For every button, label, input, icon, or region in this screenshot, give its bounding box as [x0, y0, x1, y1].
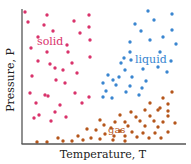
gas-point [166, 102, 169, 105]
gas-point [159, 136, 162, 139]
gas-point [61, 139, 64, 142]
gas-point [111, 138, 114, 141]
gas-point [148, 114, 151, 117]
solid-point [43, 93, 46, 96]
y-axis-label: Pressure, P [4, 48, 17, 112]
gas-point [166, 109, 169, 112]
gas-point [156, 125, 159, 128]
solid-point [45, 50, 48, 53]
liquid-point [101, 95, 104, 98]
liquid-point [110, 96, 113, 99]
solid-point [48, 62, 51, 65]
solid-point [45, 13, 48, 16]
gas-point [81, 138, 84, 141]
liquid-point [170, 12, 173, 15]
solid-point [66, 50, 69, 53]
solid-point [64, 115, 67, 118]
gas-point [166, 114, 169, 117]
liquid-point [165, 70, 168, 73]
gas-point [118, 113, 121, 116]
liquid-point [128, 40, 131, 43]
gas-point [143, 108, 146, 111]
liquid-point [104, 89, 107, 92]
gas-point [134, 115, 137, 118]
liquid-point [111, 78, 114, 81]
gas-point [135, 135, 138, 138]
liquid-point [137, 93, 140, 96]
gas-point [103, 132, 106, 135]
liquid-point [101, 81, 104, 84]
liquid-point [141, 67, 144, 70]
solid-point [63, 81, 66, 84]
liquid-point [174, 42, 177, 45]
gas-point [45, 140, 48, 143]
solid-point [65, 43, 68, 46]
gas-point [94, 128, 97, 131]
liquid-point [170, 28, 173, 31]
solid-point [72, 19, 75, 22]
solid-point [87, 13, 90, 16]
solid-point [42, 23, 45, 26]
gas-point [123, 139, 126, 142]
liquid-point [128, 84, 131, 87]
x-axis-label: Temperature, T [60, 148, 147, 161]
solid-point [70, 61, 73, 64]
phase-diagram: solid liquid gas Temperature, T Pressure… [0, 0, 191, 164]
solid-point [87, 95, 90, 98]
gas-point [166, 130, 169, 133]
solid-point [36, 59, 39, 62]
solid-point [73, 91, 76, 94]
gas-point [98, 137, 101, 140]
solid-point [61, 68, 64, 71]
liquid-point [140, 86, 143, 89]
liquid-point [122, 56, 125, 59]
solid-point [80, 101, 83, 104]
gas-point [85, 127, 88, 130]
solid-point [78, 31, 81, 34]
liquid-point [139, 29, 142, 32]
gas-point [156, 108, 159, 111]
liquid-point [152, 18, 155, 21]
gas-label: gas [108, 124, 126, 135]
liquid-point [114, 83, 117, 86]
solid-point [75, 71, 78, 74]
liquid-point [144, 79, 147, 82]
solid-point [32, 116, 35, 119]
gas-point [126, 124, 129, 127]
gas-point [98, 118, 101, 121]
gas-point [89, 136, 92, 139]
solid-point [23, 10, 26, 13]
liquid-point [128, 50, 131, 53]
gas-point [148, 101, 151, 104]
liquid-point [119, 61, 122, 64]
solid-label: solid [37, 35, 63, 48]
gas-point [161, 120, 164, 123]
solid-point [30, 74, 33, 77]
gas-point [153, 131, 156, 134]
liquid-point [133, 22, 136, 25]
gas-point [76, 134, 79, 137]
gas-point [130, 130, 133, 133]
gas-point [143, 124, 146, 127]
gas-point [56, 136, 59, 139]
liquid-point [169, 59, 172, 62]
solid-point [34, 101, 37, 104]
liquid-point [123, 68, 126, 71]
solid-point [88, 55, 91, 58]
gas-point [147, 136, 150, 139]
gas-point [173, 121, 176, 124]
gas-point [170, 90, 173, 93]
solid-point [28, 91, 31, 94]
liquid-point [130, 75, 133, 78]
solid-point [58, 103, 61, 106]
gas-point [161, 96, 164, 99]
gas-point [129, 110, 132, 113]
liquid-point [146, 9, 149, 12]
solid-point [53, 66, 56, 69]
liquid-point [148, 38, 151, 41]
liquid-point [129, 58, 132, 61]
gas-point [138, 119, 141, 122]
gas-point [141, 131, 144, 134]
solid-point [51, 29, 54, 32]
liquid-label: liquid [135, 53, 167, 66]
